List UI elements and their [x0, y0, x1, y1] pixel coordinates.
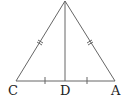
label-d: D — [60, 83, 70, 97]
triangle-diagram: C D A — [0, 0, 130, 97]
label-c: C — [8, 83, 18, 97]
label-a: A — [110, 83, 121, 97]
